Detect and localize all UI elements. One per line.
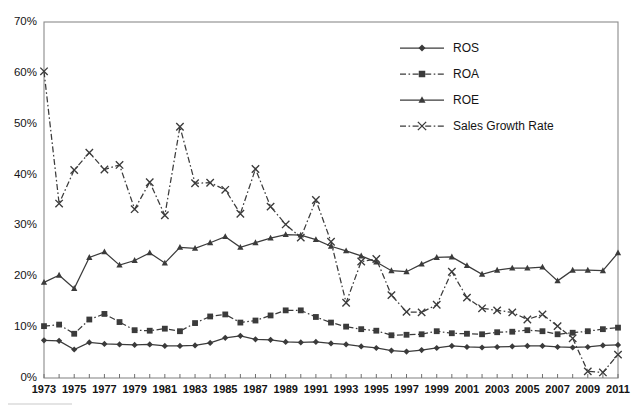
y-axis-tick-label: 20% [14,269,37,281]
data-point-marker [524,327,530,333]
data-point-marker [479,331,485,337]
data-point-marker [358,326,364,332]
data-point-marker [253,318,259,324]
legend-label: ROA [453,67,479,81]
x-axis-tick-label: 1979 [122,383,146,395]
data-point-marker [132,327,138,333]
x-axis-tick-label: 1973 [32,383,56,395]
data-point-marker [389,332,395,338]
x-axis-tick-label: 2011 [606,383,630,395]
y-axis-tick-label: 60% [14,66,37,78]
x-axis-tick-label: 1983 [183,383,207,395]
data-point-marker [222,312,228,318]
y-axis-tick-label: 70% [14,15,37,27]
x-axis-tick-label: 1989 [273,383,297,395]
data-point-marker [86,317,92,323]
data-point-marker [102,311,108,317]
data-point-marker [41,323,47,329]
data-point-marker [71,331,77,337]
data-point-marker [192,320,198,326]
data-point-marker [56,322,62,328]
x-axis-tick-label: 1985 [213,383,237,395]
x-axis-tick-label: 1999 [424,383,448,395]
x-axis-tick-label: 1993 [334,383,358,395]
x-axis-tick-label: 2005 [515,383,539,395]
data-point-marker [268,313,274,319]
x-axis-tick-label: 2003 [485,383,509,395]
data-point-marker [449,330,455,336]
data-point-marker [600,326,606,332]
x-axis-tick-label: 2001 [455,383,479,395]
data-point-marker [509,329,515,335]
line-chart: 0%10%20%30%40%50%60%70% 1973197519771979… [0,0,642,410]
x-axis-tick-label: 1975 [62,383,86,395]
data-point-marker [419,71,425,77]
data-point-marker [373,328,379,334]
x-axis-tick-label: 1995 [364,383,388,395]
data-point-marker [283,307,289,313]
data-point-marker [615,325,621,331]
data-point-marker [585,328,591,334]
data-point-marker [419,331,425,337]
data-point-marker [162,326,168,332]
x-axis-tick-label: 2007 [545,383,569,395]
data-point-marker [555,331,561,337]
data-point-marker [404,332,410,338]
y-axis-tick-label: 40% [14,168,37,180]
data-point-marker [434,328,440,334]
data-point-marker [494,329,500,335]
legend-label: ROS [453,41,479,55]
chart-background [0,0,642,410]
x-axis-tick-label: 1991 [304,383,328,395]
chart-container: 0%10%20%30%40%50%60%70% 1973197519771979… [0,0,642,410]
data-point-marker [298,307,304,313]
data-point-marker [328,320,334,326]
x-axis-tick-label: 1981 [153,383,177,395]
data-point-marker [147,328,153,334]
data-point-marker [177,328,183,334]
y-axis-tick-label: 30% [14,218,37,230]
data-point-marker [343,324,349,330]
data-point-marker [313,314,319,320]
y-axis-tick-label: 10% [14,320,37,332]
legend-label: Sales Growth Rate [453,119,554,133]
data-point-marker [540,328,546,334]
x-axis-tick-label: 1977 [92,383,116,395]
x-axis-tick-label: 1987 [243,383,267,395]
data-point-marker [237,320,243,326]
y-axis-tick-label: 50% [14,117,37,129]
legend-label: ROE [453,93,479,107]
y-axis-tick-label: 0% [20,371,37,383]
data-point-marker [570,330,576,336]
x-axis-tick-label: 1997 [394,383,418,395]
data-point-marker [464,331,470,337]
data-point-marker [117,319,123,325]
x-axis-tick-label: 2009 [576,383,600,395]
data-point-marker [207,314,213,320]
